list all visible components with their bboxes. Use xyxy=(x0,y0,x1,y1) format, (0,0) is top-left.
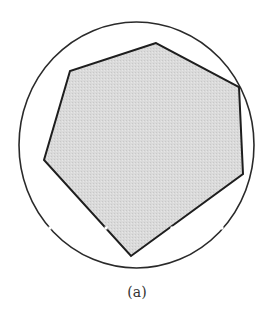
figure-caption: (a) xyxy=(0,284,274,300)
shaded-hexagon xyxy=(44,43,243,256)
diagram-figure xyxy=(0,0,274,310)
